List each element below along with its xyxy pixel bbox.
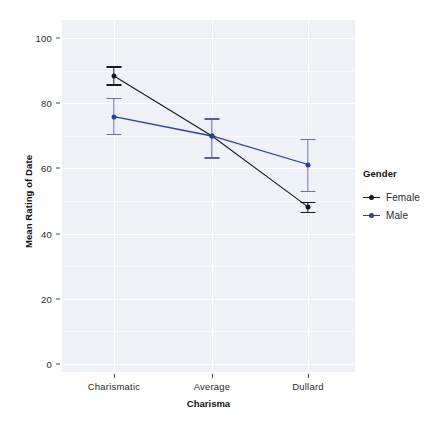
xtick-label-charismatic: Charismatic [59,381,169,392]
datapoint-female-charismatic [112,74,117,79]
plot-panel [62,20,355,372]
ytick-mark-60 [56,168,60,169]
ytick-label-80: 80 [10,98,52,109]
errorbar-cap-male-charismatic-high [107,98,122,99]
ytick-mark-40 [56,233,60,234]
datapoint-male-average [210,134,215,139]
ytick-mark-0 [56,364,60,365]
datapoint-female-dullard [306,204,311,209]
series-lines [62,20,355,372]
errorbar-cap-female-charismatic-low [107,84,122,85]
errorbar-cap-male-dullard-high [301,139,316,140]
ytick-mark-80 [56,103,60,104]
x-axis-label: Charisma [62,398,355,409]
errorbar-cap-female-average-low [205,157,220,158]
legend: Gender Female Male [363,168,436,224]
ytick-label-0: 0 [10,359,52,370]
datapoint-male-dullard [306,162,311,167]
legend-key-female-icon [363,191,380,203]
legend-item-female[interactable]: Female [363,188,436,206]
errorbar-cap-female-average-high [205,118,220,119]
legend-key-male-icon [363,209,380,221]
ytick-mark-100 [56,38,60,39]
legend-title: Gender [363,168,436,179]
ytick-label-100: 100 [10,33,52,44]
xtick-label-average: Average [157,381,267,392]
ytick-label-20: 20 [10,293,52,304]
xtick-mark-charismatic [114,374,115,378]
xtick-mark-dullard [308,374,309,378]
y-axis-label: Mean Rating of Date [23,122,34,282]
datapoint-male-charismatic [112,114,117,119]
xtick-mark-average [212,374,213,378]
legend-item-male[interactable]: Male [363,206,436,224]
legend-label-male: Male [386,210,408,221]
xtick-label-dullard: Dullard [253,381,363,392]
errorbar-cap-female-dullard-low [301,212,316,213]
ytick-mark-20 [56,298,60,299]
legend-label-female: Female [386,192,420,203]
chart-figure: 100 80 60 40 20 0 Mean Rating of Date Ch… [0,0,436,430]
errorbar-cap-male-charismatic-low [107,134,122,135]
errorbar-cap-female-dullard-high [301,202,316,203]
errorbar-cap-male-dullard-low [301,191,316,192]
errorbar-cap-female-charismatic-high [107,66,122,67]
